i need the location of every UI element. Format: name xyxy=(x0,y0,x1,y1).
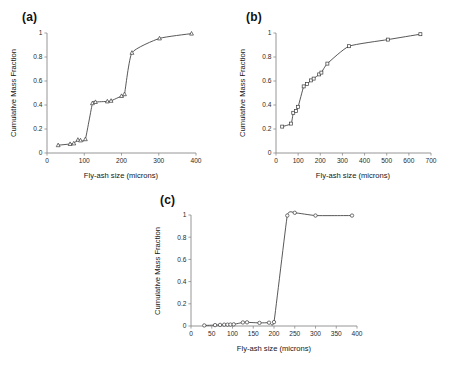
y-tick-label: 0.8 xyxy=(177,234,186,241)
data-point-marker xyxy=(258,321,261,324)
y-tick-label: 0.6 xyxy=(177,256,186,263)
data-point-marker xyxy=(272,320,275,323)
data-point-marker xyxy=(350,214,353,217)
y-tick-label: 0.4 xyxy=(33,101,42,108)
x-tick-label: 0 xyxy=(189,330,193,337)
panel-a-series xyxy=(56,32,193,147)
panel-c-axes xyxy=(191,215,357,326)
panel-c-series xyxy=(203,211,354,327)
y-tick-label: 0 xyxy=(39,149,43,156)
x-tick-label: 50 xyxy=(208,330,216,337)
data-point-marker xyxy=(109,99,113,103)
x-tick-label: 0 xyxy=(274,157,278,164)
data-point-marker xyxy=(281,125,284,128)
data-point-marker xyxy=(386,38,389,41)
x-tick-label: 100 xyxy=(227,330,238,337)
data-point-marker xyxy=(158,36,162,40)
data-point-marker xyxy=(203,324,206,327)
x-tick-label: 400 xyxy=(359,157,370,164)
data-point-marker xyxy=(123,92,127,96)
y-tick-label: 0 xyxy=(268,149,272,156)
panel-b-chart: 00.20.40.60.81 0100200300400500600700 Fl… xyxy=(228,0,456,185)
x-tick-label: 300 xyxy=(310,330,321,337)
data-point-marker xyxy=(241,321,244,324)
panel-c-xlabel: Fly-ash size (microns) xyxy=(237,344,312,353)
data-point-marker xyxy=(293,211,296,214)
data-point-marker xyxy=(218,323,221,326)
data-point-marker xyxy=(290,122,293,125)
x-tick-label: 300 xyxy=(153,157,164,164)
panel-c-ylabel: Cumulative Mass Fraction xyxy=(153,227,162,315)
data-point-marker xyxy=(105,99,109,103)
y-tick-label: 0.4 xyxy=(262,101,271,108)
x-tick-label: 100 xyxy=(79,157,90,164)
y-tick-label: 1 xyxy=(183,211,187,218)
x-tick-label: 0 xyxy=(45,157,49,164)
panel-a-axes xyxy=(47,33,196,153)
data-point-marker xyxy=(68,142,72,146)
data-point-marker xyxy=(267,321,270,324)
figure-container: (a) 00.20.40.60.81 0100200300400 Fly-ash… xyxy=(0,0,456,369)
data-point-marker xyxy=(245,321,248,324)
panel-a-line xyxy=(58,34,191,146)
y-tick-label: 0.4 xyxy=(177,278,186,285)
x-tick-label: 700 xyxy=(425,157,436,164)
panel-a-chart: 00.20.40.60.81 0100200300400 Fly-ash siz… xyxy=(0,0,228,185)
data-point-marker xyxy=(213,323,216,326)
y-tick-label: 0.6 xyxy=(262,77,271,84)
panel-a-xlabel: Fly-ash size (microns) xyxy=(84,171,159,180)
panel-c-markers xyxy=(203,211,354,327)
panel-a: (a) 00.20.40.60.81 0100200300400 Fly-ash… xyxy=(0,0,228,185)
data-point-marker xyxy=(286,214,289,217)
x-tick-label: 200 xyxy=(116,157,127,164)
panel-c-chart: 00.20.40.60.81 050100150200250300350400 … xyxy=(114,185,364,369)
data-point-marker xyxy=(229,323,232,326)
panel-c-x-ticks: 050100150200250300350400 xyxy=(189,326,363,337)
x-tick-label: 400 xyxy=(190,157,201,164)
data-point-marker xyxy=(312,77,315,80)
x-tick-label: 600 xyxy=(403,157,414,164)
panel-c: (c) 00.20.40.60.81 050100150200250300350… xyxy=(114,185,364,369)
panel-a-label: (a) xyxy=(22,10,37,24)
panel-b-y-ticks: 00.20.40.60.81 xyxy=(262,29,276,156)
panel-c-y-ticks: 00.20.40.60.81 xyxy=(177,211,191,329)
x-tick-label: 150 xyxy=(248,330,259,337)
y-tick-label: 0 xyxy=(183,322,187,329)
y-tick-label: 1 xyxy=(39,29,43,36)
y-tick-label: 0.6 xyxy=(33,77,42,84)
x-tick-label: 200 xyxy=(315,157,326,164)
panel-c-label: (c) xyxy=(160,193,175,207)
data-point-marker xyxy=(302,85,305,88)
x-tick-label: 500 xyxy=(381,157,392,164)
panel-a-x-ticks: 0100200300400 xyxy=(45,153,202,164)
data-point-marker xyxy=(56,143,60,147)
y-tick-label: 0.2 xyxy=(177,300,186,307)
x-tick-label: 400 xyxy=(351,330,362,337)
panel-b: (b) 00.20.40.60.81 010020030040050060070… xyxy=(228,0,456,185)
y-tick-label: 0.8 xyxy=(262,53,271,60)
panel-a-y-ticks: 00.20.40.60.81 xyxy=(33,29,47,156)
y-tick-label: 0.2 xyxy=(262,125,271,132)
data-point-marker xyxy=(314,214,317,217)
data-point-marker xyxy=(294,110,297,113)
data-point-marker xyxy=(320,71,323,74)
x-tick-label: 100 xyxy=(293,157,304,164)
data-point-marker xyxy=(306,83,309,86)
panel-a-markers xyxy=(56,32,193,147)
panel-a-ylabel: Cumulative Mass Fraction xyxy=(9,49,18,137)
panel-b-axes xyxy=(276,33,431,153)
y-tick-label: 0.2 xyxy=(33,125,42,132)
panel-b-line xyxy=(282,34,420,126)
panel-b-series xyxy=(281,33,422,128)
panel-c-line xyxy=(204,212,352,326)
y-tick-label: 0.8 xyxy=(33,53,42,60)
panel-b-ylabel: Cumulative Mass Fraction xyxy=(238,49,247,137)
data-point-marker xyxy=(232,323,235,326)
data-point-marker xyxy=(297,105,300,108)
data-point-marker xyxy=(83,137,87,141)
y-tick-label: 1 xyxy=(268,29,272,36)
x-tick-label: 250 xyxy=(289,330,300,337)
x-tick-label: 350 xyxy=(331,330,342,337)
panel-b-label: (b) xyxy=(246,10,262,24)
data-point-marker xyxy=(326,62,329,65)
